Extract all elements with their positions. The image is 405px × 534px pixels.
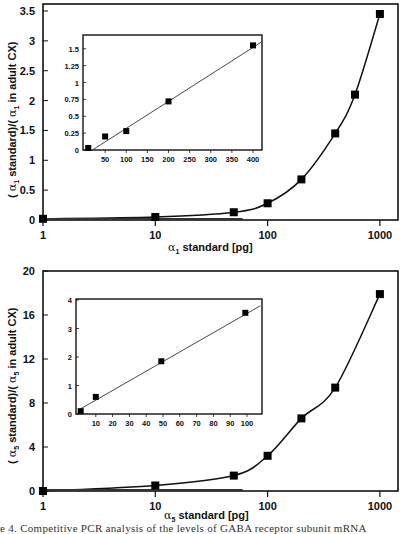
figure-caption: e 4. Competitive PCR analysis of the lev… [0,522,405,534]
inset-data-point [158,358,164,364]
inset-y-tick-label: 1 [68,382,72,391]
y-tick-label: 4 [29,441,36,453]
inset-x-tick-label: 80 [209,419,217,428]
inset-data-point [242,310,248,316]
data-point [264,452,272,460]
inset-axes: 01234102030405060708090100 [68,296,262,428]
data-point [376,290,384,298]
inset-y-tick-label: 4 [68,296,73,305]
data-point [39,487,47,495]
data-point [297,414,305,422]
y-tick-label: 0 [29,485,35,497]
inset-y-tick-label: 2 [68,353,72,362]
inset-x-tick-label: 30 [125,419,133,428]
inset-data-point [78,408,84,414]
x-tick-label: 10 [149,500,161,512]
y-tick-label: 12 [23,353,35,365]
y-axis-title-alpha5: ( α5 standard)/( α5 in adult CX) [6,307,20,464]
y-tick-label: 8 [29,397,35,409]
data-point [151,482,159,490]
inset-data-point [93,394,99,400]
inset-y-tick-label: 3 [68,325,72,334]
x-tick-label: 1 [40,500,46,512]
x-tick-label: 100 [258,500,276,512]
inset-x-tick-label: 60 [176,419,184,428]
inset-x-tick-label: 90 [226,419,234,428]
inset-x-tick-label: 50 [159,419,167,428]
inset-x-tick-label: 70 [192,419,200,428]
inset-y-tick-label: 0 [68,410,72,419]
data-point [331,384,339,392]
inset-x-tick-label: 10 [92,419,100,428]
y-tick-label: 20 [23,265,35,277]
inset-x-tick-label: 20 [108,419,116,428]
data-point [230,472,238,480]
inset-frame [76,299,262,414]
inset-x-tick-label: 100 [241,419,254,428]
y-tick-label: 16 [23,309,35,321]
x-tick-label: 1000 [368,500,392,512]
chart-alpha5-plot: 0481216201101001000012341020304050607080… [0,0,405,534]
chart-alpha5: 0481216201101001000012341020304050607080… [0,0,405,534]
inset-x-tick-label: 40 [142,419,150,428]
